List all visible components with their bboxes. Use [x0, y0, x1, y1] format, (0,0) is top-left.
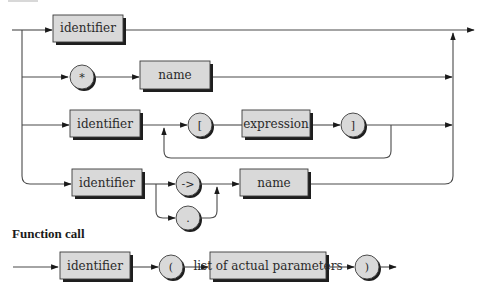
left-rail — [22, 30, 30, 184]
r3-rbracket-label: ] — [351, 119, 355, 132]
r4-dot-token: . — [176, 206, 202, 232]
r3-identifier-box: identifier — [70, 110, 143, 140]
r1-identifier-label: identifier — [60, 21, 116, 35]
r4-to-dot-branch — [156, 184, 175, 218]
syntax-diagram: identifier * name identifier [ expressio… — [0, 0, 484, 300]
fc-identifier-label: identifier — [67, 259, 123, 273]
r4-arrow-label: -> — [182, 178, 195, 191]
r2-name-box: name — [140, 61, 213, 92]
r2-star-label: * — [79, 71, 85, 84]
r4-arrow-token: -> — [176, 172, 202, 198]
r3-expression-box: expression — [242, 110, 313, 140]
r4-name-label: name — [257, 176, 290, 190]
fc-params-label: list of actual parameters — [193, 259, 342, 273]
r4-identifier-label: identifier — [79, 176, 135, 190]
r4-name-box: name — [240, 169, 311, 199]
r3-identifier-label: identifier — [77, 117, 133, 131]
r1-identifier-box: identifier — [53, 15, 126, 45]
r3-lbracket-token: [ — [188, 113, 214, 139]
fc-lparen-token: ( — [159, 255, 185, 281]
r3-lbracket-label: [ — [198, 119, 202, 132]
fc-lparen-label: ( — [169, 261, 173, 274]
fc-rparen-label: ) — [365, 261, 369, 274]
r4-identifier-box: identifier — [72, 169, 145, 199]
r3-expression-label: expression — [243, 117, 309, 131]
cropped-heading-fragment — [8, 0, 38, 2]
function-call-heading: Function call — [12, 226, 85, 241]
r4-dot-merge — [200, 187, 217, 218]
r3-rbracket-token: ] — [341, 113, 367, 139]
fc-rparen-token: ) — [355, 255, 381, 281]
r2-star-token: * — [70, 65, 96, 91]
r2-name-label: name — [158, 68, 191, 82]
fc-params-box: list of actual parameters — [193, 252, 342, 282]
fc-identifier-box: identifier — [60, 252, 133, 282]
r4-dot-label: . — [186, 212, 190, 225]
right-rail — [311, 33, 453, 184]
